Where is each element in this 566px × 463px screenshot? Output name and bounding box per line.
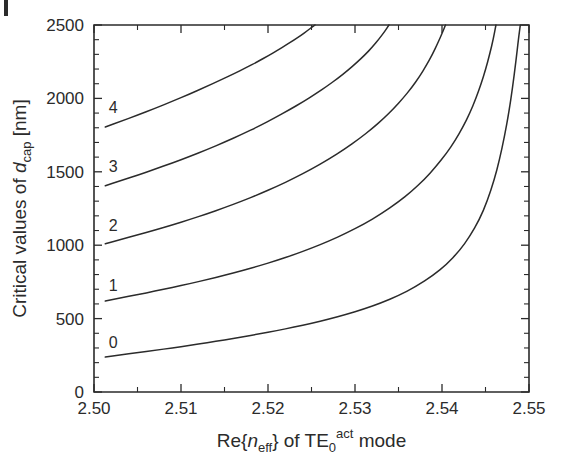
x-tick-label: 2.50 [77,399,110,418]
data-curve-0 [105,25,520,357]
y-tick-label: 2500 [46,16,84,35]
data-curve-2 [105,25,445,244]
curves-group [105,25,520,357]
y-tick-label: 1000 [46,236,84,255]
x-axis-title: Re{neff} of TE0act mode [217,426,407,455]
x-tick-label: 2.53 [338,399,371,418]
corner-crop-mark [4,0,8,16]
tick-labels-group: 050010001500200025002.502.512.522.532.54… [46,16,545,418]
y-tick-label: 2000 [46,89,84,108]
curve-labels-group: 01234 [109,99,118,351]
chart-canvas: 01234 050010001500200025002.502.512.522.… [0,0,566,463]
curve-label-0: 0 [109,334,118,351]
axes-group [94,25,529,392]
x-tick-label: 2.51 [164,399,197,418]
curve-label-3: 3 [109,158,118,175]
curve-label-1: 1 [109,277,118,294]
x-tick-label: 2.52 [251,399,284,418]
y-tick-label: 1500 [46,163,84,182]
data-curve-4 [105,25,315,127]
y-axis-title: Critical values of dcap [nm] [9,99,34,317]
figure-container: 01234 050010001500200025002.502.512.522.… [0,0,566,463]
curve-label-4: 4 [109,99,118,116]
plot-frame [94,25,529,392]
x-tick-label: 2.54 [425,399,458,418]
data-curve-1 [105,25,496,301]
curve-label-2: 2 [109,217,118,234]
data-curve-3 [105,25,389,186]
x-tick-label: 2.55 [512,399,545,418]
y-tick-label: 500 [56,310,84,329]
